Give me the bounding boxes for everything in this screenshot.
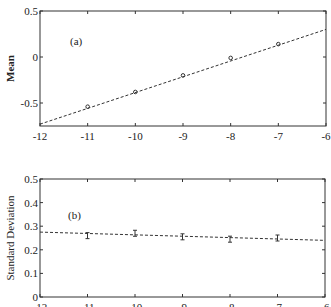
x-tick-label: -11 xyxy=(80,301,94,307)
x-tick-label: -7 xyxy=(273,301,283,307)
y-axis-title: Standard Deviation xyxy=(4,195,16,281)
data-point-errorbar xyxy=(181,234,185,240)
y-tick-label: 0.5 xyxy=(24,173,38,185)
x-tick-label: -10 xyxy=(128,301,143,307)
plot-frame xyxy=(40,11,326,126)
data-point-errorbar xyxy=(228,236,232,242)
y-tick-label: 0 xyxy=(33,51,39,63)
x-tick-label: -12 xyxy=(33,130,48,142)
data-point-errorbar xyxy=(276,235,280,241)
x-tick-label: -6 xyxy=(320,301,330,307)
x-tick-label: -11 xyxy=(81,130,95,142)
panel-label: (b) xyxy=(68,209,81,222)
x-tick-label: -9 xyxy=(178,130,188,142)
x-tick-label: -6 xyxy=(321,130,331,142)
x-tick-label: -8 xyxy=(225,301,235,307)
chart-panel-b: -12-11-10-9-8-7-60.50.40.30.20.10Standar… xyxy=(4,173,330,307)
y-tick-label: 0.2 xyxy=(24,244,38,256)
chart-panel-a: -12-11-10-9-8-7-60.50-0.5Mean(a) xyxy=(4,5,331,142)
y-tick-label: -0.5 xyxy=(21,97,39,109)
y-tick-label: 0.1 xyxy=(24,267,38,279)
y-tick-label: 0.4 xyxy=(24,197,38,209)
y-axis-title: Mean xyxy=(4,55,16,82)
fit-line xyxy=(40,29,326,124)
x-tick-label: -10 xyxy=(128,130,143,142)
y-tick-label: 0.5 xyxy=(24,5,38,17)
x-tick-label: -7 xyxy=(274,130,284,142)
chart-figure: -12-11-10-9-8-7-60.50-0.5Mean(a)-12-11-1… xyxy=(0,0,331,307)
y-tick-label: 0.3 xyxy=(24,220,38,232)
y-tick-label: 0 xyxy=(33,291,39,303)
x-tick-label: -9 xyxy=(178,301,188,307)
x-tick-label: -8 xyxy=(226,130,236,142)
panel-label: (a) xyxy=(70,35,83,48)
data-point xyxy=(229,56,233,60)
